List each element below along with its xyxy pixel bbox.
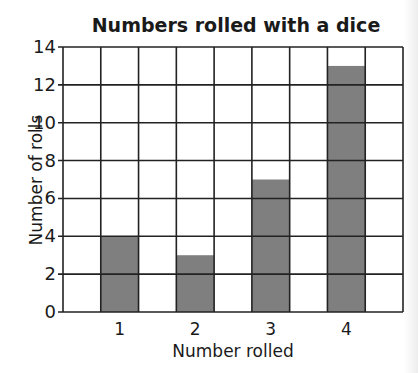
y-tick-label: 0 — [45, 301, 56, 322]
y-tick-label: 14 — [33, 36, 56, 57]
bars-group — [101, 66, 365, 312]
bar-2 — [176, 255, 214, 312]
y-tick-label: 12 — [33, 74, 56, 95]
x-tick-label: 1 — [114, 319, 125, 339]
x-tick-label: 4 — [341, 319, 352, 339]
x-tick-label: 3 — [265, 319, 276, 339]
y-axis-ticks: 02468101214 — [33, 36, 56, 322]
y-tick-label: 4 — [45, 225, 56, 246]
y-tick-label: 10 — [33, 112, 56, 133]
y-tick-label: 2 — [45, 263, 56, 284]
y-tick-label: 6 — [45, 187, 56, 208]
bar-4 — [327, 66, 365, 312]
y-tick-label: 8 — [45, 150, 56, 171]
bar-chart: 02468101214 1234 — [0, 0, 418, 373]
x-axis-ticks: 1234 — [114, 319, 351, 339]
x-tick-label: 2 — [190, 319, 201, 339]
bar-3 — [252, 180, 290, 313]
